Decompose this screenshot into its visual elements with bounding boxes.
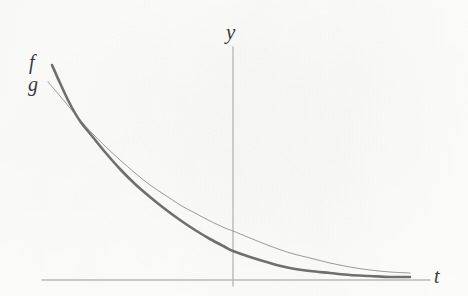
y-axis-label: y	[226, 22, 235, 43]
t-axis-label: t	[434, 266, 440, 286]
exponential-decay-figure: y t f g	[0, 0, 468, 296]
curve-f-label: f	[29, 52, 35, 72]
curve-f-path	[52, 65, 410, 277]
axes-group	[42, 47, 430, 286]
plot-canvas	[0, 0, 468, 296]
curve-g-path	[48, 82, 410, 273]
curves-group	[48, 65, 410, 277]
curve-g-label: g	[28, 74, 38, 94]
